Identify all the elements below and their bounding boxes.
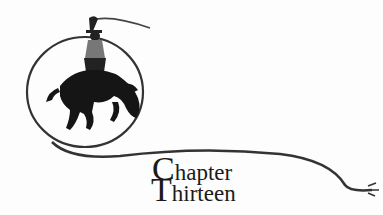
chapter-heading-graphic: Chapter Thirteen: [0, 0, 383, 215]
number-rest: hirteen: [172, 181, 236, 206]
cowboy-icon: [84, 16, 106, 72]
number-initial: T: [151, 171, 172, 208]
bucking-horse-icon: [46, 70, 140, 130]
chapter-number-word: Thirteen: [151, 173, 236, 207]
whip-icon: [97, 18, 150, 28]
